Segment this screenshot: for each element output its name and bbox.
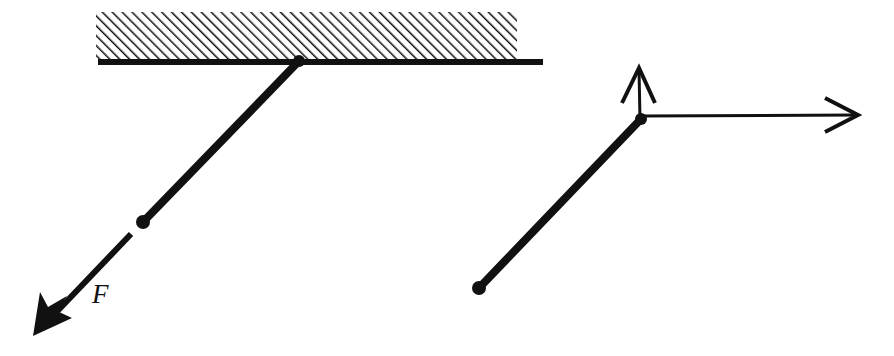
horizontal-arrow-shaft — [641, 115, 857, 116]
rigid-rod-right — [479, 119, 641, 288]
applied-force-arrow — [33, 234, 131, 336]
physics-diagram: F — [0, 0, 894, 356]
horizontal-component-arrow — [641, 98, 858, 132]
bob-mass-point — [136, 215, 150, 229]
force-label-F: F — [91, 279, 109, 309]
left-panel: F — [33, 12, 543, 336]
force-arrow-shaft — [46, 234, 131, 323]
vertical-arrow-shaft — [639, 70, 640, 119]
rigid-rod-left — [143, 61, 299, 222]
pivot-point — [293, 55, 305, 67]
figure-canvas: F — [0, 0, 894, 356]
vertex-point — [635, 113, 647, 125]
vertical-component-arrow — [622, 68, 655, 119]
right-panel — [472, 68, 858, 295]
hatched-ceiling-block — [96, 12, 517, 60]
rod-end-mass-point — [472, 281, 486, 295]
